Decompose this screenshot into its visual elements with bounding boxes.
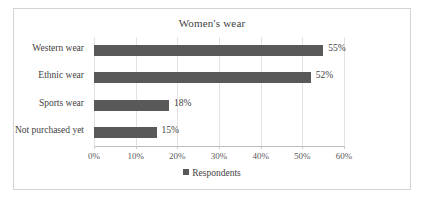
bar[interactable] xyxy=(94,45,323,56)
bar-value-label: 18% xyxy=(169,98,191,108)
bar-row: Western wear55% xyxy=(94,37,344,64)
x-axis-tick-label: 10% xyxy=(127,151,144,161)
category-label-wrap: Western wear xyxy=(0,37,89,64)
bar[interactable] xyxy=(94,72,311,83)
x-axis-tick xyxy=(219,146,220,149)
category-label: Sports wear xyxy=(0,98,89,108)
chart-title: Women's wear xyxy=(14,17,410,29)
bar[interactable] xyxy=(94,100,169,111)
x-axis-tick xyxy=(302,146,303,149)
bar-row: Sports wear18% xyxy=(94,92,344,119)
x-axis-tick xyxy=(94,146,95,149)
plot-area: Western wear55%Ethnic wear52%Sports wear… xyxy=(94,37,344,146)
category-label: Western wear xyxy=(0,43,89,53)
x-axis-tick-label: 20% xyxy=(169,151,186,161)
legend-label-respondents: Respondents xyxy=(192,168,241,178)
chart-container: Women's wear Western wear55%Ethnic wear5… xyxy=(13,8,411,190)
category-label-wrap: Ethnic wear xyxy=(0,64,89,91)
x-axis-tick xyxy=(136,146,137,149)
bar-row: Ethnic wear52% xyxy=(94,64,344,91)
category-label: Not purchased yet xyxy=(0,125,89,135)
category-label-wrap: Sports wear xyxy=(0,92,89,119)
bar-value-label: 52% xyxy=(311,70,333,80)
bar-row: Not purchased yet15% xyxy=(94,119,344,146)
bar-value-label: 55% xyxy=(323,43,345,53)
x-axis-tick-label: 40% xyxy=(252,151,269,161)
x-axis-tick xyxy=(261,146,262,149)
category-label: Ethnic wear xyxy=(0,70,89,80)
x-axis-tick xyxy=(177,146,178,149)
bar-value-label: 15% xyxy=(157,125,179,135)
x-axis-tick-label: 30% xyxy=(211,151,228,161)
bar[interactable] xyxy=(94,127,157,138)
category-label-wrap: Not purchased yet xyxy=(0,119,89,146)
x-axis-tick-label: 60% xyxy=(336,151,353,161)
x-axis-tick-label: 50% xyxy=(294,151,311,161)
x-axis-tick xyxy=(344,146,345,149)
gridline xyxy=(344,37,345,146)
legend-swatch-respondents xyxy=(183,169,189,175)
chart-legend: Respondents xyxy=(14,167,410,178)
x-axis-tick-label: 0% xyxy=(88,151,100,161)
